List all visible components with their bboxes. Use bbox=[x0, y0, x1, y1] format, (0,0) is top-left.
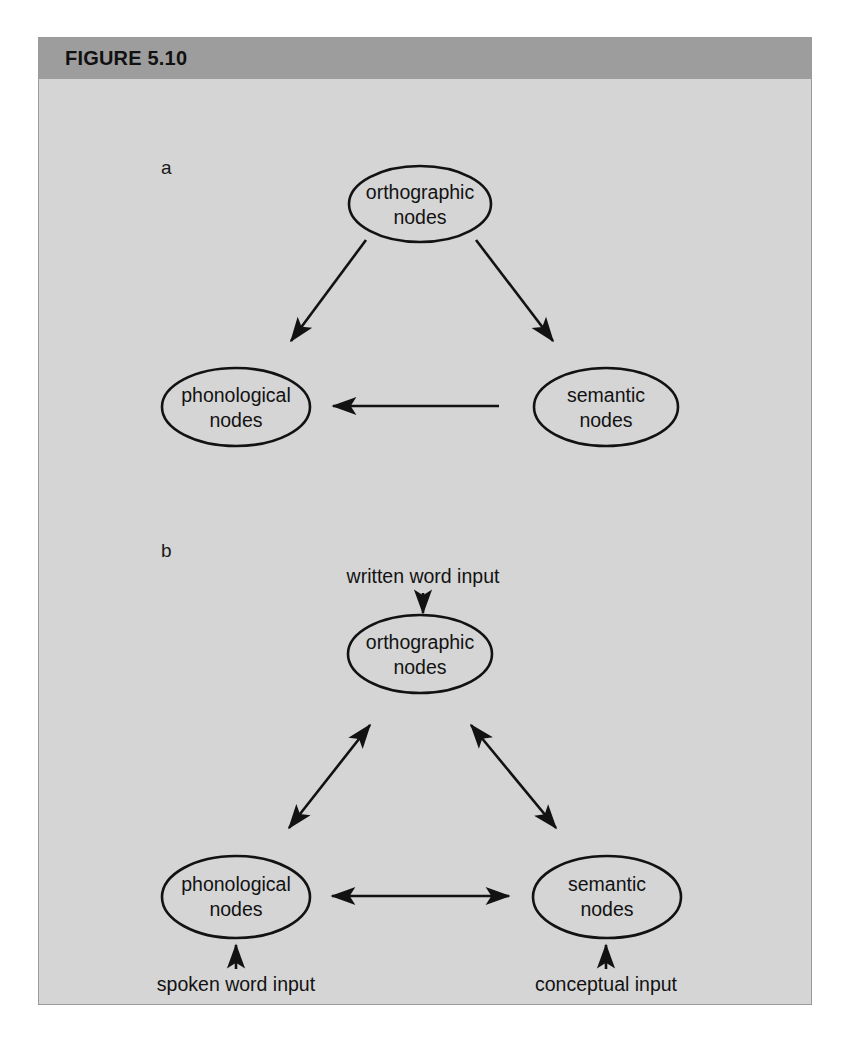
node-ellipse bbox=[349, 166, 491, 242]
spoken-word-input-label: spoken word input bbox=[157, 973, 316, 995]
arrow-b-ortho-sem bbox=[471, 725, 556, 828]
conceptual-input-label: conceptual input bbox=[535, 973, 678, 995]
node-label-line1: semantic bbox=[567, 384, 645, 406]
node-label-line2: nodes bbox=[209, 409, 262, 431]
arrow-b-ortho-phono bbox=[289, 725, 370, 828]
node-ellipse bbox=[162, 368, 310, 446]
figure-number-label: FIGURE 5.10 bbox=[65, 47, 187, 70]
node-label-line1: semantic bbox=[568, 873, 646, 895]
node-b-orthographic: orthographic nodes bbox=[348, 615, 492, 693]
node-label-line1: phonological bbox=[181, 873, 291, 895]
node-a-orthographic: orthographic nodes bbox=[349, 166, 491, 242]
node-label-line2: nodes bbox=[393, 656, 446, 678]
node-label-line1: orthographic bbox=[366, 181, 475, 203]
node-label-line2: nodes bbox=[393, 206, 446, 228]
arrow-a-ortho-to-sem bbox=[476, 240, 553, 341]
node-label-line2: nodes bbox=[209, 898, 262, 920]
node-label-line2: nodes bbox=[580, 898, 633, 920]
node-label-line1: phonological bbox=[181, 384, 291, 406]
node-ellipse bbox=[534, 368, 678, 446]
arrow-a-ortho-to-phono bbox=[291, 240, 366, 341]
node-label-line2: nodes bbox=[579, 409, 632, 431]
node-ellipse bbox=[533, 856, 681, 938]
node-a-phonological: phonological nodes bbox=[162, 368, 310, 446]
node-b-phonological: phonological nodes bbox=[162, 856, 310, 938]
node-label-line1: orthographic bbox=[366, 631, 475, 653]
figure-header-bar: FIGURE 5.10 bbox=[39, 38, 811, 79]
diagram-canvas: a orthographic nodes phonological nodes … bbox=[39, 79, 811, 1004]
panel-letter-b: b bbox=[161, 540, 172, 561]
written-word-input-label: written word input bbox=[346, 565, 500, 587]
figure-root: FIGURE 5.10 a orthographic bbox=[0, 0, 845, 1045]
node-ellipse bbox=[348, 615, 492, 693]
figure-container: FIGURE 5.10 a orthographic bbox=[38, 37, 812, 1005]
node-b-semantic: semantic nodes bbox=[533, 856, 681, 938]
diagram-svg: a orthographic nodes phonological nodes … bbox=[39, 79, 813, 1004]
panel-letter-a: a bbox=[161, 157, 172, 178]
node-a-semantic: semantic nodes bbox=[534, 368, 678, 446]
node-ellipse bbox=[162, 856, 310, 938]
